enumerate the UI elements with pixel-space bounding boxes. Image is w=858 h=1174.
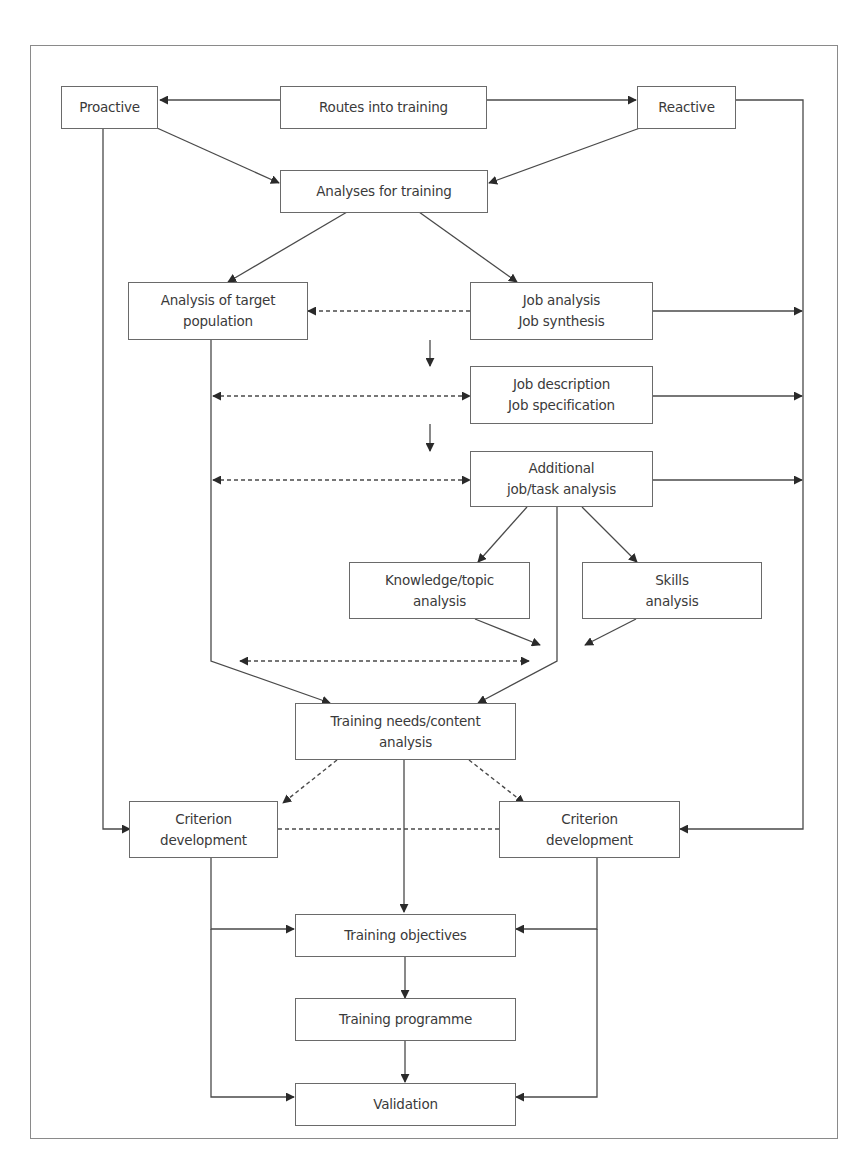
node-training-needs-content-analysis: Training needs/content analysis <box>295 703 516 760</box>
edge-analyses-job <box>419 212 517 282</box>
node-training-programme: Training programme <box>295 998 516 1041</box>
node-criterion-development-left: Criterion development <box>129 801 278 858</box>
node-criterion-development-right: Criterion development <box>499 801 680 858</box>
edge-trainingneeds-criterion-right <box>469 760 524 803</box>
edge-additional-skills <box>582 507 637 562</box>
node-knowledge-topic-analysis: Knowledge/topic analysis <box>349 562 530 619</box>
edge-proactive-analyses <box>157 128 279 183</box>
node-analyses-for-training: Analyses for training <box>280 170 488 213</box>
edge-analyses-target <box>228 212 347 282</box>
edge-reactive-criterion <box>672 100 803 829</box>
node-training-objectives: Training objectives <box>295 914 516 957</box>
node-validation: Validation <box>295 1083 516 1126</box>
edge-criterion-left-objectives <box>211 857 294 929</box>
edge-criterion-right-objectives <box>516 857 597 929</box>
edge-criterion-left-validation <box>211 929 294 1097</box>
edge-knowledge-down <box>475 619 540 645</box>
node-proactive: Proactive <box>61 86 158 129</box>
edge-skills-down <box>585 619 636 645</box>
edge-reactive-analyses <box>489 128 640 183</box>
node-job-analysis-synthesis: Job analysis Job synthesis <box>470 282 653 340</box>
edge-trainingneeds-criterion-left <box>283 760 337 803</box>
edge-target-trainingneeds <box>211 340 330 703</box>
node-routes-into-training: Routes into training <box>280 86 487 129</box>
edge-additional-knowledge <box>478 507 527 562</box>
edge-proactive-criterion <box>103 128 130 829</box>
node-analysis-target-population: Analysis of target population <box>128 282 308 340</box>
node-skills-analysis: Skills analysis <box>582 562 762 619</box>
node-job-description-specification: Job description Job specification <box>470 366 653 424</box>
node-additional-job-task-analysis: Additional job/task analysis <box>470 451 653 507</box>
edge-criterion-right-validation <box>516 929 597 1097</box>
node-reactive: Reactive <box>637 86 736 129</box>
